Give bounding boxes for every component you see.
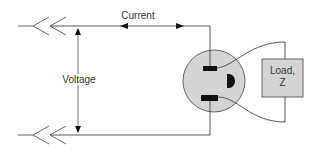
- current-label: Current: [111, 10, 165, 21]
- voltage-label: Voltage: [56, 74, 102, 85]
- load-label: Load, Z: [262, 65, 303, 89]
- hot-prong-slot: [203, 66, 217, 71]
- bottom-wire: [50, 97, 210, 135]
- load-label-line2: Z: [262, 77, 303, 89]
- load-label-line1: Load,: [262, 65, 303, 77]
- top-wire: [50, 26, 210, 68]
- neutral-prong-slot: [201, 95, 218, 101]
